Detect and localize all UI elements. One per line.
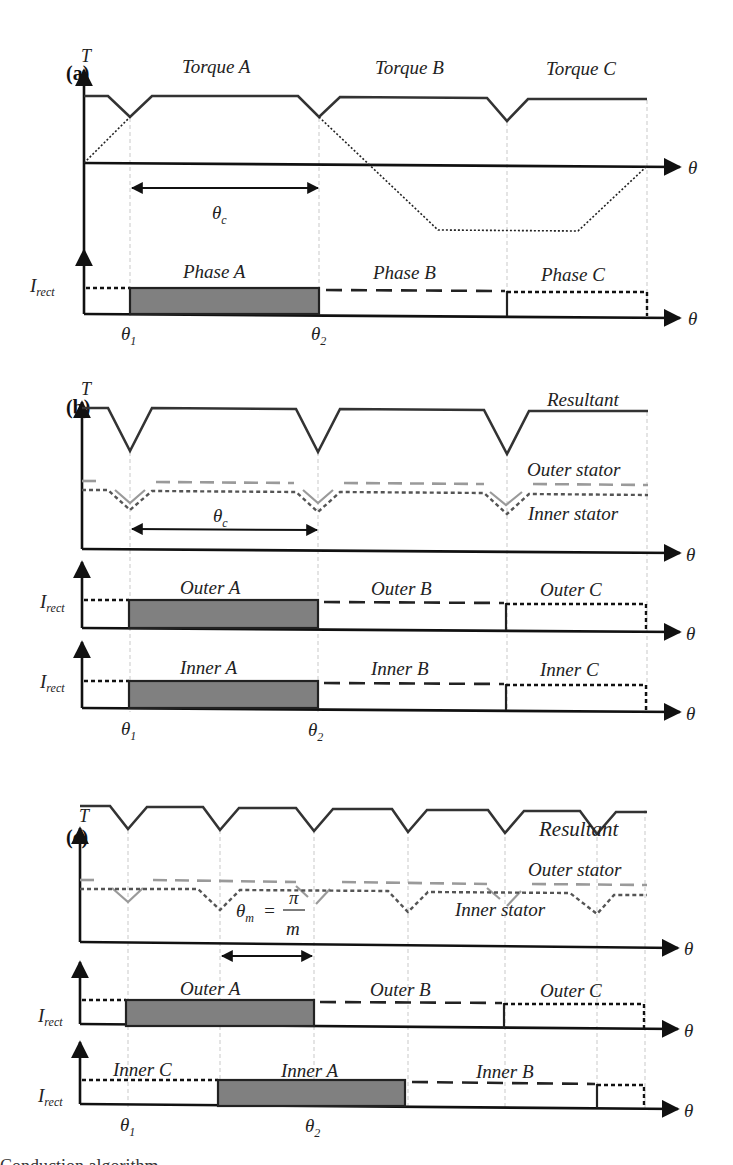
guide-lines [128,810,645,1110]
torque-axis-label: T [81,379,93,399]
panel-b: (b) T θ Resultant Outer stator Inner sta… [39,379,695,744]
phase-c-label: Phase C [540,264,605,285]
svg-text:=: = [263,900,276,921]
outer-stator-label: Outer stator [528,859,622,880]
theta-axis [82,549,680,553]
theta-2-label: θ2 [305,1115,320,1140]
outer-a-conduction-block [129,600,318,628]
inner-a-label: Inner A [280,1060,339,1081]
theta-axis-label: θ [686,544,695,565]
svg-text:θm: θm [236,900,254,925]
theta-axis-label: θ [684,938,693,959]
resultant-label: Resultant [538,817,619,841]
inner-irect-label: Irect [37,1085,63,1109]
torque-axis-label: T [81,46,93,66]
irect-label: Irect [29,275,55,299]
resultant-label: Resultant [546,389,619,410]
resultant-torque-curve [84,96,647,121]
outer-a-label: Outer A [180,577,241,598]
outer-b-label: Outer B [370,979,431,1000]
inner-b-label: Inner B [475,1061,534,1082]
svg-text:m: m [286,918,300,939]
theta-axis [84,163,680,167]
inner-c-label: Inner C [112,1059,172,1080]
panel-c: (c) T θ Resultant [37,806,693,1140]
inner-b-label: Inner B [370,658,429,679]
figure-caption: Conduction algorithm... [0,1153,733,1165]
inner-current-theta-label: θ [686,703,695,724]
inner-irect-label: Irect [39,671,65,695]
phase-b-current [326,290,505,291]
panel-label-c: (c) [66,826,88,849]
outer-irect-label: Irect [37,1005,63,1029]
outer-stator-curve [80,880,647,906]
inner-a-label: Inner A [179,657,238,678]
conduction-diagram: (a) T θ Torque A Torque B Torque C θc θ … [0,0,733,1165]
inner-current-theta-label: θ [684,1100,693,1121]
theta-2-label: θ2 [311,323,326,348]
svg-text:π: π [289,887,299,908]
theta-c-label: θc [213,505,228,530]
theta-1-label: θ1 [121,323,136,348]
theta-1-label: θ1 [121,718,136,743]
torque-axis-label: T [79,806,91,826]
torque-b-label: Torque B [375,57,444,78]
torque-a-label: Torque A [182,56,251,77]
outer-c-label: Outer C [540,980,602,1001]
phase-b-torque-curve [319,117,647,231]
theta-1-label: θ1 [120,1114,135,1139]
outer-current-theta-label: θ [686,623,695,644]
outer-c-label: Outer C [540,579,602,600]
outer-a-conduction-block [126,1000,314,1026]
inner-stator-label: Inner stator [454,899,546,920]
theta-axis-label: θ [688,157,697,178]
outer-stator-label: Outer stator [527,459,621,480]
outer-b-label: Outer B [371,578,432,599]
theta-c-label: θc [212,202,227,227]
inner-stator-curve [80,889,647,914]
phase-b-label: Phase B [372,262,436,283]
resultant-torque-curve [82,408,648,454]
shift-angle-formula: θm = π m [236,887,305,939]
phase-a-label: Phase A [182,261,246,282]
outer-irect-label: Irect [39,591,65,615]
inner-a-conduction-block [129,681,318,708]
phase-c-current [507,292,647,316]
current-theta-label: θ [688,308,697,329]
inner-a-conduction-block [218,1080,405,1106]
phase-a-torque-rise [84,117,130,163]
panel-a: (a) T θ Torque A Torque B Torque C θc θ … [29,46,697,348]
theta-axis [80,942,678,948]
torque-c-label: Torque C [546,58,616,79]
theta-2-label: θ2 [308,719,323,744]
outer-a-label: Outer A [180,978,241,999]
outer-current-theta-label: θ [684,1020,693,1041]
inner-stator-label: Inner stator [527,503,619,524]
inner-c-label: Inner C [539,659,599,680]
phase-a-conduction-block [130,288,319,314]
